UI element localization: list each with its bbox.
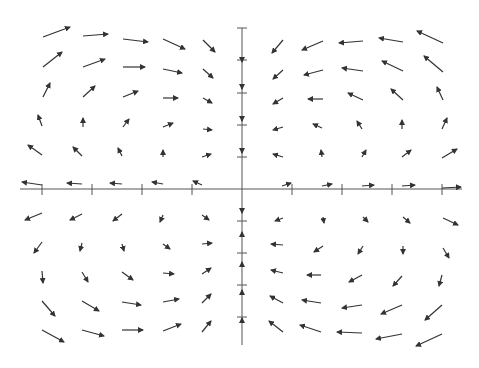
- vector-arrow: [271, 270, 283, 273]
- vector-arrow: [381, 305, 402, 314]
- vector-arrow: [123, 119, 129, 127]
- vector-arrow: [83, 86, 95, 97]
- vector-arrow: [203, 129, 212, 130]
- vector-arrow: [403, 217, 410, 223]
- vector-arrow: [34, 242, 42, 253]
- vector-arrow: [273, 98, 283, 104]
- vector-arrow: [363, 217, 368, 222]
- vector-arrow: [273, 127, 283, 130]
- vector-arrow: [362, 150, 366, 157]
- vector-arrow: [82, 301, 99, 311]
- vector-arrow: [25, 213, 42, 220]
- vector-arrow: [163, 69, 182, 73]
- vector-arrow: [203, 98, 212, 103]
- vector-arrow: [118, 148, 122, 156]
- vector-arrow: [28, 145, 42, 155]
- vector-arrow: [302, 300, 321, 303]
- vector-arrow: [442, 149, 457, 158]
- vector-arrow: [300, 325, 321, 332]
- vector-arrow: [382, 61, 403, 71]
- vector-arrow: [273, 70, 283, 79]
- vector-arrow: [322, 184, 332, 186]
- vector-arrow: [273, 154, 283, 157]
- vector-arrow: [272, 40, 283, 53]
- vector-arrow: [416, 334, 442, 346]
- vector-arrow: [152, 182, 163, 184]
- vector-arrow: [443, 248, 449, 258]
- vector-arrow: [443, 218, 458, 225]
- vector-field-plot: [0, 0, 479, 368]
- vector-arrow: [82, 330, 104, 336]
- vector-arrow: [193, 181, 202, 185]
- vector-arrow: [82, 272, 88, 282]
- vector-arrow: [314, 246, 323, 252]
- vector-arrow: [43, 83, 50, 97]
- vector-arrow: [349, 275, 362, 282]
- vector-arrow: [22, 182, 42, 185]
- vector-arrow: [122, 244, 124, 251]
- vector-arrow: [42, 301, 55, 316]
- vector-arrow: [163, 273, 174, 274]
- vector-arrow: [439, 275, 442, 286]
- vector-arrow: [402, 150, 411, 157]
- vector-arrow: [202, 243, 212, 244]
- vector-arrow: [163, 299, 179, 302]
- vector-arrow: [275, 218, 283, 221]
- vector-arrow: [269, 321, 283, 332]
- vector-arrow: [67, 183, 82, 184]
- vector-arrow: [202, 268, 211, 274]
- vector-arrow: [271, 244, 283, 245]
- vector-arrow: [321, 150, 322, 157]
- vector-arrow: [202, 294, 211, 303]
- vector-arrow: [42, 271, 43, 283]
- vector-arrow: [163, 39, 185, 49]
- vector-arrow: [38, 115, 42, 126]
- vector-arrow: [163, 324, 181, 331]
- vector-arrow: [339, 41, 363, 43]
- vector-arrow: [110, 183, 122, 184]
- vector-arrow: [393, 276, 402, 286]
- vector-arrow: [342, 305, 362, 308]
- vector-arrow: [379, 38, 403, 42]
- vector-arrow: [402, 185, 415, 186]
- vector-arrow: [42, 330, 64, 342]
- vector-arrow: [43, 52, 62, 67]
- vector-arrow: [122, 272, 133, 280]
- vector-arrow: [337, 332, 362, 333]
- vector-arrow: [425, 305, 442, 320]
- vector-arrow: [203, 69, 213, 78]
- vector-arrow: [203, 40, 215, 52]
- vector-arrow: [391, 89, 403, 100]
- vector-arrow: [163, 244, 170, 249]
- vector-arrow: [70, 214, 82, 220]
- vector-arrow: [202, 154, 211, 157]
- vector-arrow: [362, 185, 374, 186]
- vector-arrow: [113, 214, 122, 221]
- vector-arrow: [43, 27, 70, 37]
- vector-arrow: [304, 70, 323, 75]
- vector-arrow: [442, 187, 461, 188]
- vector-arrow: [160, 215, 163, 222]
- vector-arrow: [202, 321, 211, 332]
- vector-arrow: [437, 87, 443, 100]
- vector-arrow: [302, 41, 323, 50]
- vector-arrow: [282, 183, 291, 186]
- vector-arrow: [73, 147, 82, 156]
- vector-arrow: [123, 91, 138, 97]
- vector-arrow: [202, 215, 209, 220]
- vector-arrow: [348, 93, 363, 100]
- axes: [20, 28, 462, 345]
- vector-arrow: [358, 246, 363, 254]
- vector-arrow: [357, 121, 362, 129]
- vector-arrow: [123, 39, 148, 42]
- vector-arrow: [83, 59, 105, 67]
- vector-arrow: [270, 296, 283, 303]
- vector-arrow: [323, 217, 324, 223]
- vector-arrow: [417, 31, 443, 43]
- vector-arrow: [442, 118, 447, 129]
- vector-arrow: [83, 34, 108, 36]
- vector-arrow: [163, 123, 173, 127]
- vector-arrow: [376, 334, 402, 339]
- vector-arrow: [342, 68, 363, 71]
- vector-arrow: [424, 56, 443, 72]
